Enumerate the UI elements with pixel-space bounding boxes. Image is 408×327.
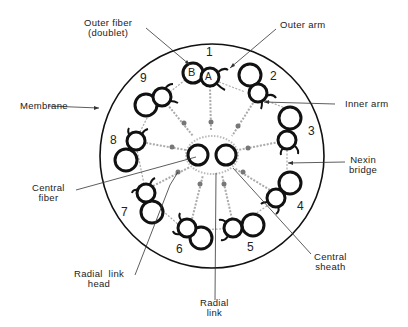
label-nexin-bridge: Nexin bridge [349, 155, 377, 175]
label-outer-fiber: Outer fiber (doublet) [84, 18, 132, 38]
doublet-number-2: 2 [270, 69, 277, 83]
label-outer-fiber-line2: (doublet) [84, 28, 132, 38]
doublet-number-1: 1 [206, 45, 213, 59]
doublet-number-6: 6 [176, 242, 183, 256]
subfiber-b-label: B [188, 66, 195, 78]
label-radial-link-line2: link [200, 308, 229, 318]
central-fiber-left [188, 145, 208, 165]
doublet-number-7: 7 [121, 205, 128, 219]
label-outer-arm: Outer arm [280, 20, 325, 30]
label-central-fiber: Central fiber [32, 183, 65, 203]
doublet-number-9: 9 [140, 71, 147, 85]
doublet-number-5: 5 [247, 240, 254, 254]
label-radial-link-head: Radial link head [74, 269, 124, 289]
central-fiber-right [216, 145, 236, 165]
label-central-fiber-line2: fiber [32, 193, 65, 203]
doublet-number-8: 8 [110, 133, 117, 147]
label-radial-link: Radial link [200, 298, 229, 318]
label-membrane: Membrane [20, 101, 68, 111]
doublet-number-4: 4 [297, 199, 304, 213]
label-radial-link-head-line2: head [74, 279, 124, 289]
axoneme-diagram [0, 0, 408, 327]
label-central-sheath: Central sheath [314, 252, 347, 272]
label-central-sheath-line2: sheath [314, 262, 347, 272]
label-inner-arm: Inner arm [345, 99, 388, 109]
subfiber-a-label: A [205, 71, 212, 82]
label-nexin-line2: bridge [349, 165, 377, 175]
doublet-number-3: 3 [308, 124, 315, 138]
